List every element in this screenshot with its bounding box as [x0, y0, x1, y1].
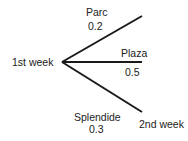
root-label: 1st week: [12, 56, 53, 68]
branch-probability-splendide: 0.3: [89, 123, 104, 135]
branch-name-splendide: Splendide: [74, 111, 121, 123]
probability-tree-diagram: 1st week Parc 0.2 Plaza 0.5 Splendide 0.…: [0, 0, 188, 141]
stage-label: 2nd week: [139, 118, 184, 130]
branch-probability-parc: 0.2: [88, 20, 103, 32]
branch-name-parc: Parc: [86, 6, 108, 18]
branch-name-plaza: Plaza: [121, 47, 147, 59]
branch-probability-plaza: 0.5: [125, 66, 140, 78]
